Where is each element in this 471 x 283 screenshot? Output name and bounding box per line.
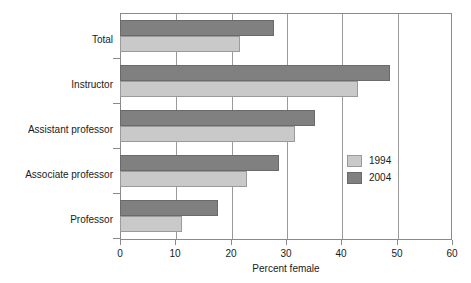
x-axis-tick [397, 240, 398, 245]
bar-associate-professor-1994 [120, 171, 247, 187]
y-axis-label-total: Total [0, 34, 113, 45]
x-axis-tick-label-50: 50 [377, 248, 417, 260]
x-axis-title: Percent female [120, 263, 452, 275]
bar-chart: Total Instructor Assistant professor Ass… [0, 0, 471, 283]
bar-professor-1994 [120, 216, 182, 232]
bar-assistant-professor-1994 [120, 126, 295, 142]
x-axis-tick [175, 240, 176, 245]
x-axis-tick-label-30: 30 [266, 248, 306, 260]
legend-item-1994: 1994 [347, 152, 413, 169]
bar-assistant-professor-2004 [120, 110, 315, 126]
legend-label-2004: 2004 [369, 172, 391, 184]
legend-swatch-2004 [347, 172, 362, 184]
y-axis-tick [113, 238, 120, 239]
x-axis-tick-label-10: 10 [155, 248, 195, 260]
x-axis-tick [452, 240, 453, 245]
y-axis-tick [113, 103, 120, 104]
bar-associate-professor-2004 [120, 155, 279, 171]
legend-item-2004: 2004 [347, 169, 413, 186]
y-axis-tick [113, 193, 120, 194]
legend-swatch-1994 [347, 155, 362, 167]
x-axis-tick [286, 240, 287, 245]
y-axis-label-professor: Professor [0, 214, 113, 225]
x-axis-tick-label-40: 40 [321, 248, 361, 260]
x-axis-tick-label-20: 20 [211, 248, 251, 260]
bar-instructor-1994 [120, 81, 358, 97]
bar-instructor-2004 [120, 65, 390, 81]
y-axis-label-associate-professor: Associate professor [0, 169, 113, 180]
bar-total-2004 [120, 20, 274, 36]
legend-label-1994: 1994 [369, 155, 391, 167]
x-axis-tick-label-0: 0 [100, 248, 140, 260]
legend: 1994 2004 [347, 152, 413, 186]
y-axis-label-assistant-professor: Assistant professor [0, 124, 113, 135]
y-axis-tick [113, 148, 120, 149]
bars-layer [120, 13, 452, 240]
bar-professor-2004 [120, 200, 218, 216]
x-axis-tick-label-60: 60 [432, 248, 471, 260]
x-axis-tick [341, 240, 342, 245]
y-axis-label-instructor: Instructor [0, 79, 113, 90]
x-axis-tick [231, 240, 232, 245]
y-axis-tick [113, 58, 120, 59]
x-axis-tick [120, 240, 121, 245]
bar-total-1994 [120, 36, 240, 52]
